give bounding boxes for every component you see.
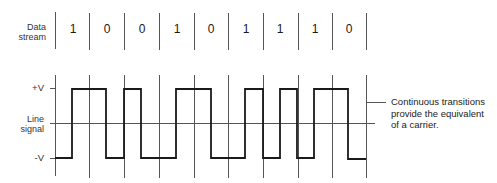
diagram-canvas (0, 0, 497, 183)
annotation-line1: Continuous transitions (391, 96, 497, 108)
carrier-annotation: Continuous transitions provide the equiv… (391, 96, 497, 131)
annotation-line3: of a carrier. (391, 119, 497, 131)
annotation-line2: provide the equivalent (391, 108, 497, 120)
bit-dividers (56, 12, 367, 50)
signal-axes (50, 75, 386, 178)
